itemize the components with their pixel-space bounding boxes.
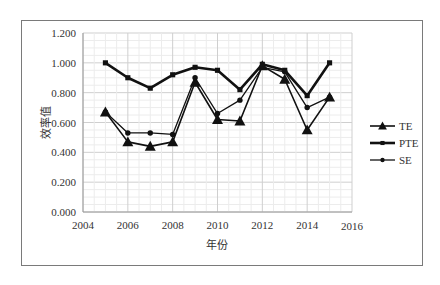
square-marker: [327, 60, 332, 65]
legend-item-pte: PTE: [370, 137, 419, 149]
x-tick-label: 2006: [117, 219, 140, 231]
square-marker: [170, 72, 175, 77]
circle-marker: [215, 111, 220, 116]
square-marker: [125, 75, 130, 80]
x-tick-label: 2014: [296, 219, 319, 231]
circle-marker: [125, 130, 130, 135]
legend-label: SE: [399, 154, 412, 166]
square-marker: [237, 87, 242, 92]
circle-marker: [192, 75, 197, 80]
y-axis-ticks: 0.0000.2000.4000.6000.8001.0001.200: [51, 27, 76, 218]
legend-item-te: TE: [370, 120, 413, 132]
legend-label: PTE: [399, 137, 419, 149]
y-tick-label: 0.800: [51, 87, 76, 99]
legend-item-se: SE: [370, 154, 412, 166]
circle-marker: [103, 109, 108, 114]
y-tick-label: 1.200: [51, 27, 76, 39]
x-tick-label: 2010: [207, 219, 230, 231]
circle-marker: [260, 65, 265, 70]
circle-marker: [282, 69, 287, 74]
square-marker: [193, 65, 198, 70]
y-tick-label: 0.000: [51, 206, 76, 218]
circle-marker: [304, 105, 309, 110]
y-tick-label: 0.600: [51, 117, 76, 129]
square-marker: [380, 141, 384, 145]
circle-marker: [170, 132, 175, 137]
circle-marker: [237, 97, 242, 102]
x-axis-title: 年份: [206, 238, 228, 251]
triangle-marker: [302, 124, 313, 134]
x-tick-label: 2016: [341, 220, 364, 232]
circle-marker: [148, 130, 153, 135]
y-tick-label: 1.000: [51, 57, 76, 69]
y-tick-label: 0.400: [51, 146, 76, 158]
square-marker: [215, 68, 220, 73]
square-marker: [103, 60, 108, 65]
legend-label: TE: [399, 120, 413, 132]
y-axis-title: 效率值: [39, 106, 52, 139]
square-marker: [305, 93, 310, 98]
x-tick-label: 2012: [251, 219, 273, 231]
x-tick-label: 2004: [72, 219, 95, 231]
x-tick-label: 2008: [162, 219, 185, 231]
x-axis-ticks: 2004200620082010201220142016: [72, 219, 364, 232]
square-marker: [148, 86, 153, 91]
y-tick-label: 0.200: [51, 176, 76, 188]
circle-marker: [380, 158, 384, 162]
line-chart: 0.0000.2000.4000.6000.8001.0001.200 2004…: [0, 0, 440, 285]
legend: TEPTESE: [370, 120, 419, 166]
circle-marker: [327, 94, 332, 99]
